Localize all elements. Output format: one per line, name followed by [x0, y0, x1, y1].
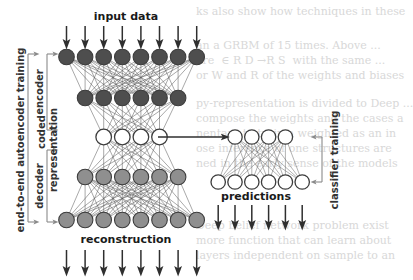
code-layer-node	[133, 129, 149, 145]
decoder-hidden-node	[152, 169, 168, 185]
label-representation: representation	[48, 108, 59, 192]
prediction-layer-node	[278, 175, 292, 189]
prediction-layer-node	[295, 175, 309, 189]
decoder-hidden-node	[133, 169, 149, 185]
output-layer-node	[96, 212, 112, 228]
output-layer-node	[77, 212, 93, 228]
input-layer-node	[115, 49, 131, 65]
label-predictions: predictions	[221, 190, 291, 203]
code-layer-node	[115, 129, 131, 145]
input-layer-node	[152, 49, 168, 65]
prediction-layer-node	[261, 175, 275, 189]
prediction-layer-node	[228, 175, 242, 189]
bracket-classifier-training	[313, 137, 322, 182]
output-layer-node	[170, 212, 186, 228]
prediction-layer-node	[211, 175, 225, 189]
output-layer-node	[189, 212, 205, 228]
label-end-to-end-autoencoder-training: end-to-end autoencoder training	[15, 48, 26, 233]
label-input-data: input data	[94, 10, 158, 23]
input-layer-node	[189, 49, 205, 65]
input-layer-node	[133, 49, 149, 65]
output-layer-node	[59, 212, 75, 228]
input-layer-node	[59, 49, 75, 65]
decoder-hidden-node	[96, 169, 112, 185]
encoder-hidden-node	[133, 90, 149, 106]
encoder-hidden-node	[115, 90, 131, 106]
label-classifier-training: classifier training	[329, 111, 340, 210]
decoder-hidden-node	[115, 169, 131, 185]
output-layer-node	[133, 212, 149, 228]
encoder-hidden-node	[96, 90, 112, 106]
decoder-hidden-node	[170, 169, 186, 185]
input-layer-node	[77, 49, 93, 65]
encoder-hidden-node	[77, 90, 93, 106]
prediction-layer-node	[245, 175, 259, 189]
encoder-hidden-node	[152, 90, 168, 106]
classifier-hidden-node	[245, 130, 259, 144]
decoder-hidden-node	[77, 169, 93, 185]
classifier-hidden-node	[261, 130, 275, 144]
input-layer-node	[96, 49, 112, 65]
classifier-hidden-node	[228, 130, 242, 144]
label-encoder: encoder	[34, 69, 45, 115]
input-layer-node	[170, 49, 186, 65]
output-layer-node	[152, 212, 168, 228]
label-coded: coded	[36, 115, 47, 149]
output-layer-node	[115, 212, 131, 228]
figure-labels: input data reconstruction predictions en…	[15, 10, 340, 246]
label-reconstruction: reconstruction	[81, 233, 172, 246]
label-decoder: decoder	[34, 163, 45, 209]
encoder-hidden-node	[170, 90, 186, 106]
code-layer-node	[96, 129, 112, 145]
classifier-hidden-node	[278, 130, 292, 144]
